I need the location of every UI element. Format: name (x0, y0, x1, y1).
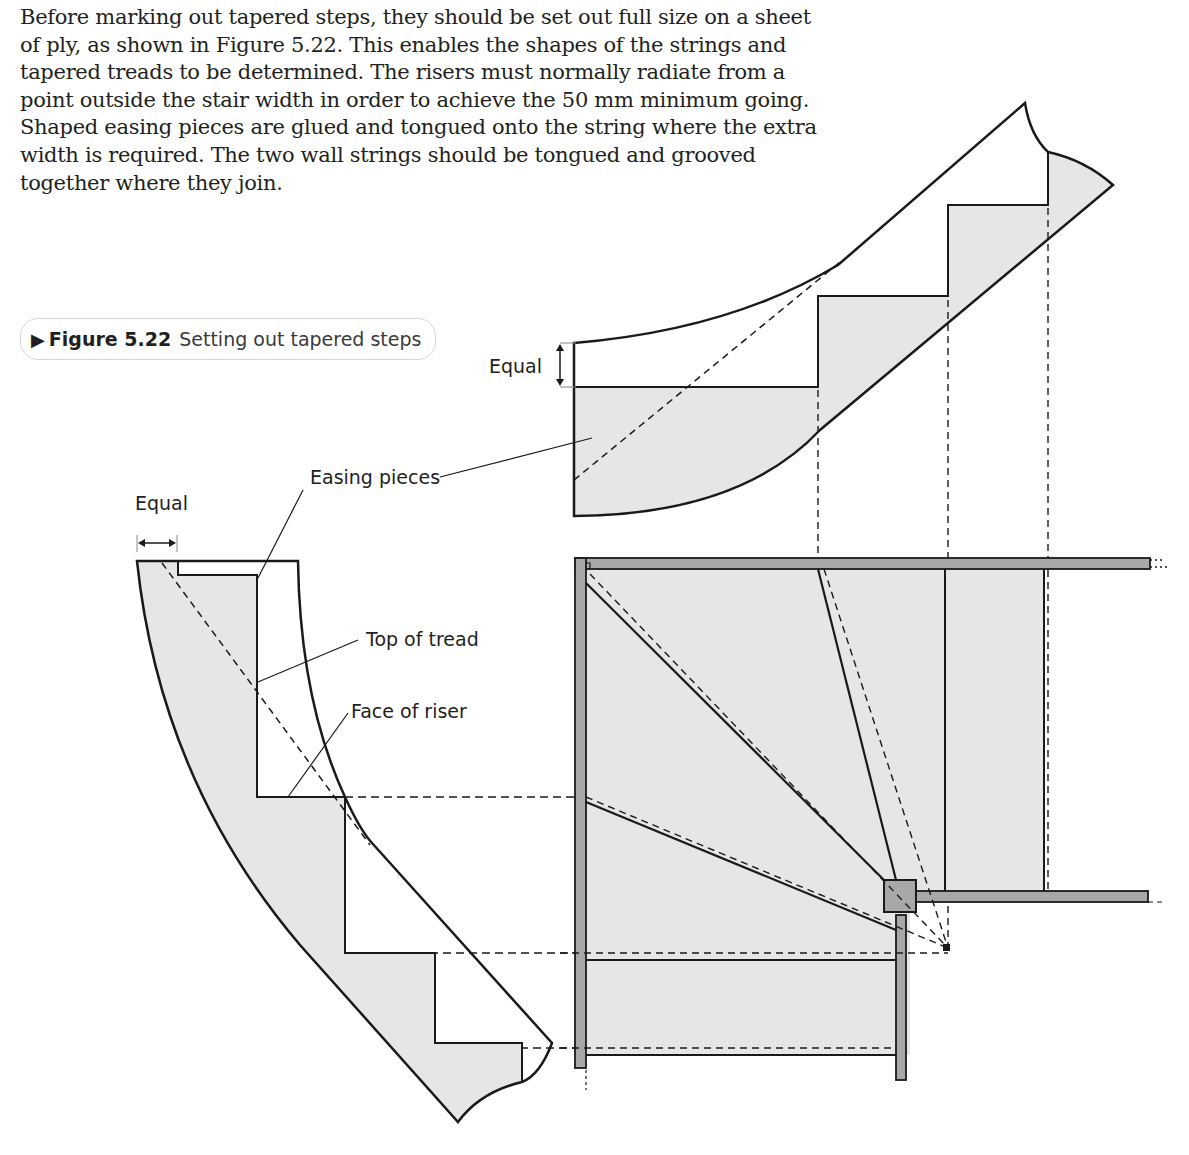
label-easing-pieces: Easing pieces (310, 466, 440, 488)
label-top-of-tread: Top of tread (365, 628, 479, 650)
label-equal-top: Equal (489, 355, 542, 377)
upper-wall-string: Equal (489, 103, 1113, 516)
label-equal-left: Equal (135, 492, 188, 514)
label-face-of-riser: Face of riser (351, 700, 467, 722)
plan-view (560, 558, 1170, 1090)
setting-out-point (943, 944, 950, 951)
stair-setting-out-diagram: Equal Easing pieces (0, 0, 1189, 1155)
lower-wall-string: Equal (135, 492, 552, 1122)
easing-pieces-callout: Easing pieces (258, 438, 592, 578)
tread-riser-callouts: Top of tread Face of riser (258, 628, 479, 797)
